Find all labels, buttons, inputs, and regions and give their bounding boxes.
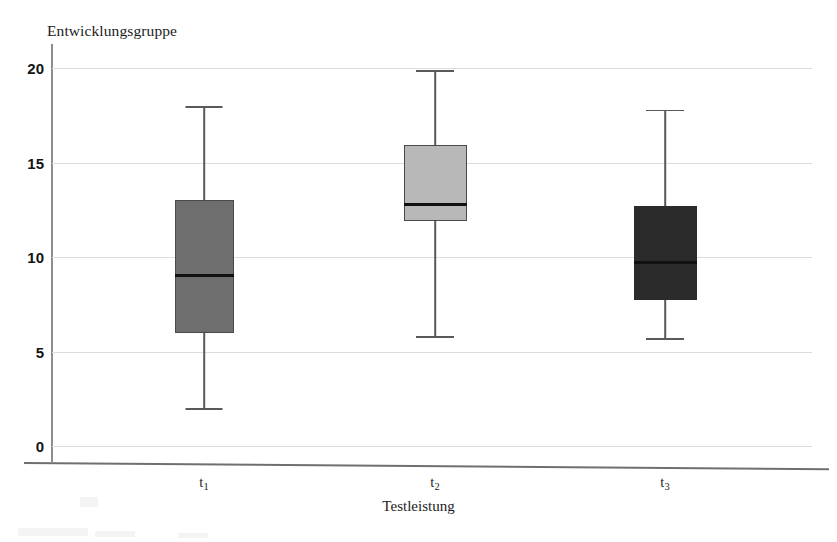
- x-tick-subscript: 2: [434, 481, 439, 492]
- plot-area: [52, 60, 812, 460]
- boxplot-figure: Entwicklungsgruppe 20 15 10 5 0 t1 t2 t3…: [0, 0, 837, 542]
- x-tick-subscript: 1: [203, 481, 208, 492]
- x-tick-label-t1: t1: [144, 474, 264, 491]
- median-line: [634, 261, 697, 264]
- whisker-lower: [664, 300, 666, 338]
- box-rect: [634, 206, 697, 301]
- y-tick-label: 0: [4, 438, 44, 455]
- whisker-cap-lower: [186, 408, 223, 410]
- whisker-cap-upper: [646, 110, 684, 112]
- x-axis-title: Testleistung: [0, 498, 837, 515]
- boxplot-t1: [175, 60, 234, 460]
- whisker-cap-upper: [416, 70, 454, 72]
- whisker-lower: [203, 333, 205, 409]
- x-tick-subscript: 3: [664, 481, 669, 492]
- y-tick-label: 5: [4, 343, 44, 360]
- median-line: [404, 203, 467, 206]
- scan-artifact: [95, 531, 135, 537]
- scan-artifact: [178, 533, 208, 538]
- median-line: [175, 274, 234, 277]
- y-tick-label: 10: [4, 249, 44, 266]
- whisker-lower: [434, 221, 436, 336]
- boxplot-t3: [634, 60, 697, 460]
- y-tick-label: 15: [4, 154, 44, 171]
- x-axis-line: [24, 462, 829, 470]
- whisker-cap-lower: [646, 338, 684, 340]
- whisker-cap-lower: [416, 336, 454, 338]
- whisker-upper: [203, 106, 205, 201]
- y-axis-title: Entwicklungsgruppe: [47, 22, 177, 40]
- whisker-upper: [434, 70, 436, 146]
- x-tick-label-t3: t3: [605, 474, 725, 491]
- x-tick-label-t2: t2: [375, 474, 495, 491]
- y-axis-tick-labels: 20 15 10 5 0: [0, 0, 44, 542]
- y-tick-label: 20: [4, 60, 44, 77]
- whisker-cap-upper: [186, 106, 223, 108]
- box-rect: [175, 200, 234, 332]
- whisker-upper: [664, 110, 666, 206]
- boxplot-t2: [404, 60, 467, 460]
- box-rect: [404, 145, 467, 221]
